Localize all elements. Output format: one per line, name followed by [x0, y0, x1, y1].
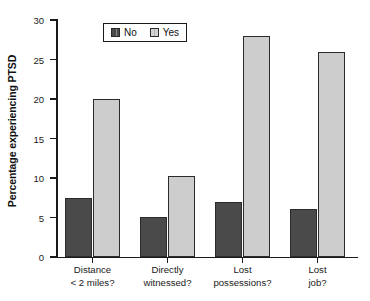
bar-no-group-3	[215, 202, 243, 257]
x-axis-group-label: Lostpossessions?	[205, 264, 280, 289]
x-axis-group-label-line1: Lost	[233, 264, 251, 275]
x-axis-group-label-line2: possessions?	[205, 277, 280, 290]
x-axis-tick	[92, 257, 93, 263]
y-axis-tick-label: 0	[0, 252, 46, 263]
x-axis-group-label: Distance< 2 miles?	[55, 264, 130, 289]
y-axis-tick	[50, 59, 57, 60]
x-axis-group-label-line2: job?	[280, 277, 355, 290]
x-axis-tick	[317, 257, 318, 263]
y-axis-tick-label: 10	[0, 173, 46, 184]
x-axis-group-label-line2: witnessed?	[130, 277, 205, 290]
x-axis-tick	[242, 257, 243, 263]
y-axis-tick	[50, 177, 57, 178]
y-axis-tick-label: 30	[0, 15, 46, 26]
x-axis-group-label-line1: Lost	[308, 264, 326, 275]
x-axis-tick	[167, 257, 168, 263]
y-axis-tick-label: 25	[0, 54, 46, 65]
legend-label: No	[124, 27, 137, 38]
bars-layer	[57, 20, 358, 257]
y-axis-tick	[50, 19, 57, 20]
y-axis-tick	[50, 217, 57, 218]
y-axis-tick	[50, 256, 57, 257]
x-axis-group-label-line1: Directly	[152, 264, 184, 275]
bar-no-group-1	[65, 198, 93, 257]
legend-label: Yes	[163, 27, 179, 38]
y-axis-tick-label: 20	[0, 94, 46, 105]
y-axis-tick	[50, 98, 57, 99]
bar-no-group-4	[290, 209, 318, 257]
legend-entry-no: No	[111, 27, 137, 38]
x-axis-group-label: Directlywitnessed?	[130, 264, 205, 289]
y-axis-tick-label: 5	[0, 212, 46, 223]
x-axis-group-label-line2: < 2 miles?	[55, 277, 130, 290]
chart-legend: NoYes	[103, 23, 187, 42]
legend-entry-yes: Yes	[150, 27, 179, 38]
bar-chart-figure: Percentage experiencing PTSD 05101520253…	[0, 0, 370, 301]
y-axis-tick	[50, 138, 57, 139]
y-axis-tick-label: 15	[0, 133, 46, 144]
x-axis-group-label-line1: Distance	[74, 264, 111, 275]
bar-yes-group-2	[168, 176, 196, 257]
dark-gray-swatch-icon	[111, 28, 120, 37]
bar-yes-group-3	[243, 36, 271, 257]
y-axis-title-text: Percentage experiencing PTSD	[6, 55, 18, 207]
bar-no-group-2	[140, 217, 168, 257]
bar-yes-group-1	[93, 99, 121, 257]
bar-yes-group-4	[318, 52, 346, 257]
light-gray-swatch-icon	[150, 28, 159, 37]
x-axis-group-label: Lostjob?	[280, 264, 355, 289]
